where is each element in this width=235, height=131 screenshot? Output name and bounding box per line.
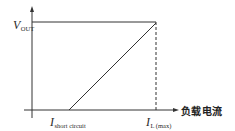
x-axis-label: 负载电流 bbox=[181, 103, 222, 118]
isc-label-main: I bbox=[50, 115, 54, 129]
y-axis-arrow-icon bbox=[30, 6, 34, 12]
short-circuit-current-label: Ishort circuit bbox=[50, 113, 86, 130]
vout-label-sub: OUT bbox=[21, 25, 34, 32]
current-limit-slope-line bbox=[69, 23, 156, 110]
ilmax-label-main: I bbox=[146, 115, 150, 129]
ilmax-label-sub: L (max) bbox=[151, 122, 172, 129]
vout-label: VOUT bbox=[13, 16, 34, 33]
vout-label-main: V bbox=[13, 18, 20, 32]
x-axis-arrow-icon bbox=[173, 108, 179, 112]
isc-label-sub: short circuit bbox=[55, 122, 86, 129]
vout-vs-load-current-diagram: VOUT Ishort circuit IL (max) 负载电流 bbox=[0, 0, 235, 131]
max-load-current-label: IL (max) bbox=[146, 113, 171, 130]
